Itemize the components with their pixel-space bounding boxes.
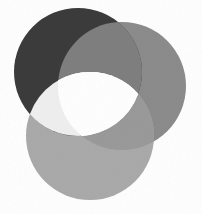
venn-diagram-canvas — [0, 0, 202, 214]
venn-diagram-svg — [0, 0, 202, 214]
